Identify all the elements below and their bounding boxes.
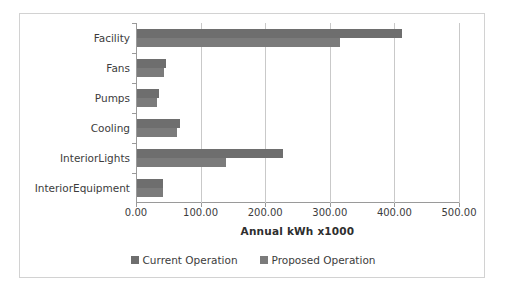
- category-label: Facility: [94, 32, 130, 44]
- bar-row: InteriorLights: [136, 143, 459, 173]
- bar-row: Cooling: [136, 113, 459, 143]
- category-label: InteriorEquipment: [35, 182, 130, 194]
- bar-current-operation[interactable]: [137, 29, 402, 38]
- bar-current-operation[interactable]: [137, 119, 180, 128]
- x-axis-title: Annual kWh x1000: [136, 225, 459, 237]
- legend-swatch-icon: [131, 256, 139, 264]
- y-tick-mark: [132, 23, 136, 24]
- legend-label: Current Operation: [143, 254, 238, 266]
- bar-row: Facility: [136, 23, 459, 53]
- x-tick-label: 200.00: [248, 207, 283, 218]
- x-tick-label: 400.00: [377, 207, 412, 218]
- bar-row: Pumps: [136, 83, 459, 113]
- bar-proposed-operation[interactable]: [137, 128, 177, 137]
- x-tick-label: 500.00: [442, 207, 477, 218]
- bar-row: Fans: [136, 53, 459, 83]
- category-label: Pumps: [95, 92, 130, 104]
- x-tick-label: 100.00: [183, 207, 218, 218]
- y-tick-mark: [132, 53, 136, 54]
- bar-proposed-operation[interactable]: [137, 188, 163, 197]
- bar-row: InteriorEquipment: [136, 173, 459, 203]
- legend-item[interactable]: Proposed Operation: [260, 254, 376, 266]
- chart-container: 0.00100.00200.00300.00400.00500.00 Facil…: [19, 13, 485, 278]
- category-label: InteriorLights: [60, 152, 130, 164]
- x-tick-label: 0.00: [125, 207, 147, 218]
- category-label: Cooling: [91, 122, 130, 134]
- y-tick-mark: [132, 173, 136, 174]
- legend-item[interactable]: Current Operation: [131, 254, 238, 266]
- bar-current-operation[interactable]: [137, 149, 283, 158]
- bar-proposed-operation[interactable]: [137, 38, 340, 47]
- bar-proposed-operation[interactable]: [137, 158, 226, 167]
- y-tick-mark: [132, 113, 136, 114]
- legend-swatch-icon: [260, 256, 268, 264]
- bar-proposed-operation[interactable]: [137, 68, 164, 77]
- chart-legend: Current OperationProposed Operation: [20, 254, 486, 266]
- x-tick-label: 300.00: [312, 207, 347, 218]
- bar-current-operation[interactable]: [137, 179, 163, 188]
- gridline: [459, 23, 460, 203]
- plot-area: 0.00100.00200.00300.00400.00500.00 Facil…: [136, 23, 459, 203]
- category-label: Fans: [106, 62, 130, 74]
- bar-current-operation[interactable]: [137, 59, 166, 68]
- bar-proposed-operation[interactable]: [137, 98, 157, 107]
- bar-current-operation[interactable]: [137, 89, 159, 98]
- legend-label: Proposed Operation: [272, 254, 376, 266]
- y-tick-mark: [132, 143, 136, 144]
- y-tick-mark: [132, 83, 136, 84]
